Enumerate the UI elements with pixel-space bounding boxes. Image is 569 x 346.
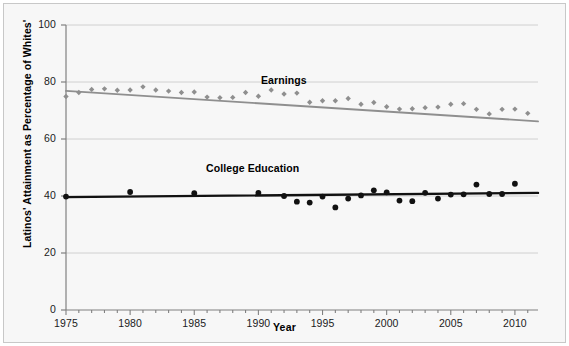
- chart-figure: 020406080100 197519801985199019952000200…: [0, 0, 569, 346]
- data-point: [512, 106, 517, 111]
- data-point: [217, 95, 222, 100]
- data-point: [255, 190, 261, 196]
- data-point: [499, 191, 505, 197]
- data-point: [333, 98, 338, 103]
- data-point: [115, 88, 120, 93]
- data-point: [243, 90, 248, 95]
- data-point: [192, 89, 197, 94]
- gridlines: [66, 25, 538, 253]
- data-point: [371, 100, 376, 105]
- data-point: [422, 105, 427, 110]
- data-point: [384, 189, 390, 195]
- data-point: [320, 194, 326, 200]
- data-point: [499, 107, 504, 112]
- y-tick-marks: [61, 25, 66, 310]
- y-tick-label: 20: [30, 246, 56, 258]
- earnings-series-label: Earnings: [261, 74, 307, 86]
- y-tick-label: 0: [30, 303, 56, 315]
- y-tick-label: 60: [30, 132, 56, 144]
- data-point: [410, 106, 415, 111]
- y-tick-label: 100: [30, 18, 56, 30]
- x-axis-title: Year: [0, 321, 569, 333]
- data-point: [294, 90, 299, 95]
- data-point: [422, 190, 428, 196]
- data-point: [191, 190, 197, 196]
- data-point: [256, 94, 261, 99]
- data-point: [435, 196, 441, 202]
- data-point: [294, 199, 300, 205]
- college-education-series-label: College Education: [206, 162, 299, 174]
- data-point: [127, 87, 132, 92]
- data-point: [512, 181, 518, 187]
- data-point: [89, 87, 94, 92]
- earnings-trendline: [66, 91, 538, 121]
- data-point: [487, 111, 492, 116]
- data-point: [345, 96, 350, 101]
- data-point: [307, 100, 312, 105]
- x-tick-marks: [66, 310, 528, 315]
- y-axis-title: Latinos' Attainment as Percentage of Whi…: [21, 48, 33, 248]
- y-tick-label: 80: [30, 75, 56, 87]
- data-point: [409, 198, 415, 204]
- data-point: [358, 193, 364, 199]
- data-point: [371, 187, 377, 193]
- data-point: [486, 191, 492, 197]
- data-point: [397, 198, 403, 204]
- data-point: [281, 193, 287, 199]
- data-point: [269, 87, 274, 92]
- data-point: [525, 111, 530, 116]
- data-point: [307, 200, 313, 206]
- data-point: [474, 107, 479, 112]
- data-point: [435, 104, 440, 109]
- data-point: [230, 95, 235, 100]
- data-point: [63, 194, 69, 200]
- data-point: [63, 94, 68, 99]
- data-point: [461, 191, 467, 197]
- data-point: [332, 205, 338, 211]
- data-point: [461, 101, 466, 106]
- axis-lines: [66, 25, 538, 310]
- data-point: [320, 98, 325, 103]
- data-point: [140, 84, 145, 89]
- data-point: [166, 88, 171, 93]
- y-tick-label: 40: [30, 189, 56, 201]
- trendline-segment: [66, 91, 538, 121]
- data-point: [448, 102, 453, 107]
- earnings-data-points: [63, 84, 530, 116]
- data-point: [127, 189, 133, 195]
- data-point: [384, 104, 389, 109]
- data-point: [397, 106, 402, 111]
- data-point: [474, 182, 480, 188]
- data-point: [153, 87, 158, 92]
- data-point: [345, 196, 351, 202]
- data-point: [102, 86, 107, 91]
- data-point: [448, 192, 454, 198]
- data-point: [281, 91, 286, 96]
- data-point: [179, 90, 184, 95]
- data-point: [358, 102, 363, 107]
